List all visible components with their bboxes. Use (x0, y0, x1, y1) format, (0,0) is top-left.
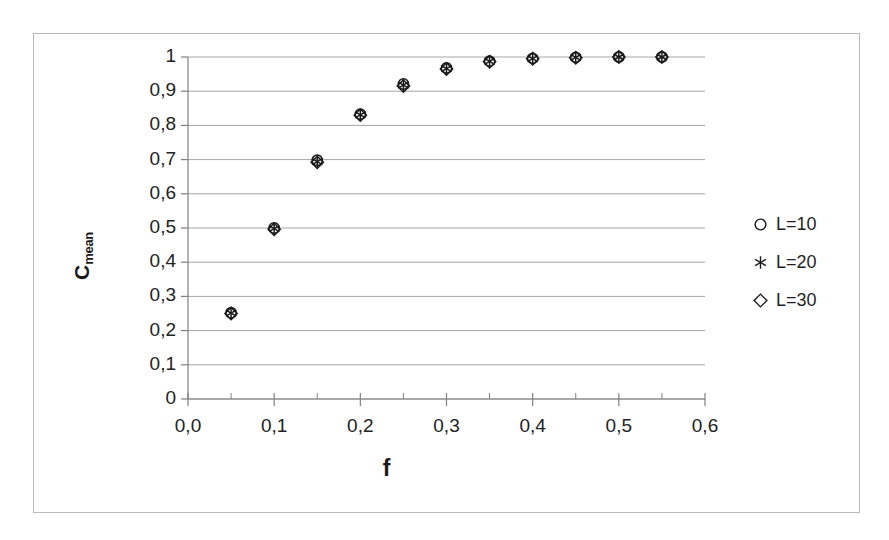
x-tick-label: 0,2 (325, 416, 395, 435)
marker-circle-legend (755, 219, 766, 230)
asterisk-icon (752, 254, 769, 271)
x-tick-label: 0,4 (498, 416, 568, 435)
legend-item-label: L=30 (776, 290, 817, 311)
legend-item-label: L=10 (776, 214, 817, 235)
legend-item-l-30[interactable]: L=30 (752, 281, 847, 319)
marker-diamond-legend (754, 294, 767, 307)
x-tick-label: 0,5 (584, 416, 654, 435)
legend-item-l-10[interactable]: L=10 (752, 205, 847, 243)
chart-legend: L=10L=20L=30 (752, 205, 847, 319)
legend-item-l-20[interactable]: L=20 (752, 243, 847, 281)
legend-item-label: L=20 (776, 252, 817, 273)
x-tick-label: 0,3 (412, 416, 482, 435)
x-tick-label: 0,6 (670, 416, 740, 435)
x-tick-label: 0,0 (153, 416, 223, 435)
circle-icon (752, 216, 769, 233)
diamond-icon (752, 292, 769, 309)
marker-asterisk-legend (755, 256, 766, 268)
x-tick-label: 0,1 (239, 416, 309, 435)
